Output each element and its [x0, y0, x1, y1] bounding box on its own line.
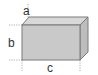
- cuboid-top-face: [22, 17, 88, 25]
- label-b: b: [8, 36, 15, 50]
- label-a: a: [23, 4, 30, 18]
- cuboid-front-face: [22, 25, 80, 60]
- label-c: c: [47, 61, 53, 75]
- cuboid-side-face: [80, 17, 88, 60]
- cuboid-diagram: a b c: [0, 0, 98, 75]
